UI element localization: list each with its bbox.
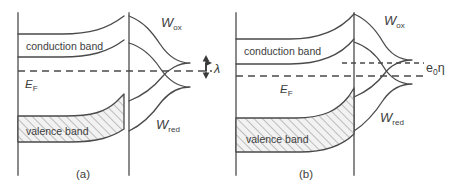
w-ox-label-b: Wox bbox=[384, 13, 405, 30]
conduction-band-upper-edge-b bbox=[236, 14, 354, 39]
panel-a: conduction band valence band EF Wox Wred… bbox=[0, 0, 228, 189]
valence-band-label-b: valence band bbox=[246, 133, 309, 145]
conduction-band-label-a: conduction band bbox=[26, 40, 103, 52]
panel-caption-a: (a) bbox=[76, 168, 90, 180]
conduction-band-upper-edge bbox=[18, 16, 124, 34]
w-red-label-a: Wred bbox=[156, 117, 180, 134]
lambda-arrowhead-down bbox=[203, 73, 210, 80]
lambda-label-a: λ bbox=[213, 62, 220, 76]
valence-band-label-a: valence band bbox=[26, 125, 89, 137]
energy-band-diagram-figure: conduction band valence band EF Wox Wred… bbox=[0, 0, 455, 189]
panel-b: conduction band valence band EF Wox Wred… bbox=[228, 0, 455, 189]
fermi-level-label-b: EF bbox=[280, 83, 293, 98]
panel-caption-b: (b) bbox=[299, 168, 313, 180]
w-red-label-b: Wred bbox=[380, 110, 404, 127]
lambda-arrowhead-up bbox=[203, 55, 210, 62]
w-ox-label-a: Wox bbox=[161, 15, 182, 32]
fermi-level-label-a: EF bbox=[25, 78, 38, 93]
conduction-band-label-b: conduction band bbox=[244, 45, 321, 57]
overpotential-label-b: e0η bbox=[426, 61, 445, 77]
